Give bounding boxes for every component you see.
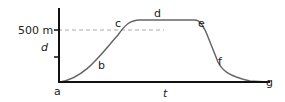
distance-curve: [60, 20, 268, 82]
point-label-d: d: [154, 7, 161, 20]
point-label-a: a: [54, 85, 61, 98]
point-label-b: b: [98, 59, 105, 72]
y-axis-label: d: [41, 41, 49, 54]
point-label-g: g: [266, 76, 273, 89]
y-tick-label: 500 m: [18, 24, 53, 37]
point-label-e: e: [198, 17, 205, 30]
x-axis-label: t: [163, 87, 168, 100]
point-label-f: f: [218, 55, 223, 68]
distance-time-graph: 500 m d t a b c d e f g: [0, 0, 285, 102]
point-label-c: c: [115, 17, 121, 30]
